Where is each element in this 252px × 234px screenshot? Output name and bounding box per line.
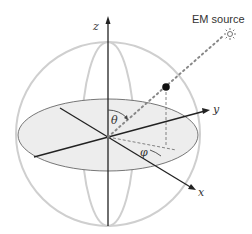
em-source-label: EM source bbox=[192, 13, 245, 25]
y-axis-arrowhead bbox=[202, 108, 210, 114]
phi-label: φ bbox=[140, 146, 148, 159]
x-axis-label: x bbox=[198, 186, 205, 199]
z-axis-arrowhead bbox=[106, 16, 111, 24]
sun-icon bbox=[224, 28, 236, 40]
z-axis-label: z bbox=[92, 20, 99, 33]
point-marker bbox=[162, 83, 170, 91]
theta-label: θ bbox=[111, 114, 118, 127]
spherical-diagram: z y x θ φ EM source bbox=[0, 0, 252, 234]
y-axis-label: y bbox=[212, 103, 220, 116]
